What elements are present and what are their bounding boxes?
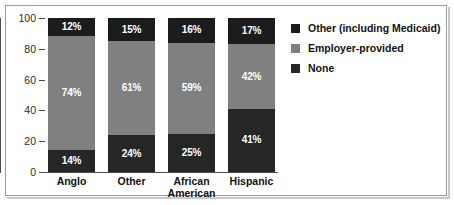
bar-stack: 16%59%25% [168,18,215,172]
bar-segment: 42% [228,44,275,109]
legend-item: Other (including Medicaid) [291,18,446,38]
y-axis-line [0,18,1,173]
legend-swatch-icon [291,44,300,53]
bar-segment: 15% [108,18,155,41]
x-axis-category-label-line: American [157,188,227,200]
y-axis-tick [39,18,45,19]
bar-segment-value-label: 25% [182,148,201,158]
bar-stack: 15%61%24% [108,18,155,172]
figure-shadow-bottom [7,197,450,199]
y-axis-tick-label: 20 [10,136,36,147]
bar-segment-value-label: 74% [62,88,81,98]
y-axis-tick-label: 80 [10,44,36,55]
bar-segment-value-label: 42% [242,72,261,82]
bar-segment-value-label: 59% [182,83,201,93]
bar-segment-value-label: 12% [62,22,81,32]
bar-segment: 24% [108,135,155,172]
y-axis-tick [39,49,45,50]
y-axis-tick [39,141,45,142]
bar-segment: 14% [48,150,95,172]
y-axis-tick [39,172,45,173]
legend-label: Other (including Medicaid) [308,23,440,34]
legend-swatch-icon [291,64,300,73]
bar-stack: 17%42%41% [228,18,275,172]
bar-segment-value-label: 16% [182,25,201,35]
x-axis-category-label: Hispanic [217,176,287,188]
y-axis-tick-label: 60 [10,75,36,86]
figure-shadow-right [448,7,450,199]
legend-swatch-icon [291,24,300,33]
y-axis-tick-label: 100 [10,13,36,24]
bar-segment: 74% [48,36,95,150]
bar-segment-value-label: 14% [62,156,81,166]
legend-label: None [308,63,334,74]
bar-segment: 59% [168,43,215,134]
figure: 020406080100 12%74%14%Anglo15%61%24%Othe… [0,0,454,205]
bar-segment-value-label: 61% [122,83,141,93]
legend-item: None [291,58,446,78]
y-axis-tick [39,80,45,81]
bar-segment-value-label: 17% [242,26,261,36]
y-axis-tick-label: 40 [10,105,36,116]
bar-segment-value-label: 15% [122,25,141,35]
legend-item: Employer-provided [291,38,446,58]
legend-label: Employer-provided [308,43,404,54]
x-axis-line [44,172,278,173]
bar-segment-value-label: 41% [242,135,261,145]
y-axis-labels: 020406080100 [6,0,36,205]
bar-segment: 41% [228,109,275,172]
bar-segment: 17% [228,18,275,44]
bar-segment-value-label: 24% [122,149,141,159]
bar-segment: 16% [168,18,215,43]
chart-legend: Other (including Medicaid)Employer-provi… [291,18,446,78]
bar-segment: 61% [108,41,155,135]
y-axis-tick [39,110,45,111]
bar-segment: 25% [168,134,215,173]
y-axis-tick-label: 0 [10,167,36,178]
bar-stack: 12%74%14% [48,18,95,172]
bar-segment: 12% [48,18,95,36]
x-axis-category-label-line: Hispanic [217,176,287,188]
